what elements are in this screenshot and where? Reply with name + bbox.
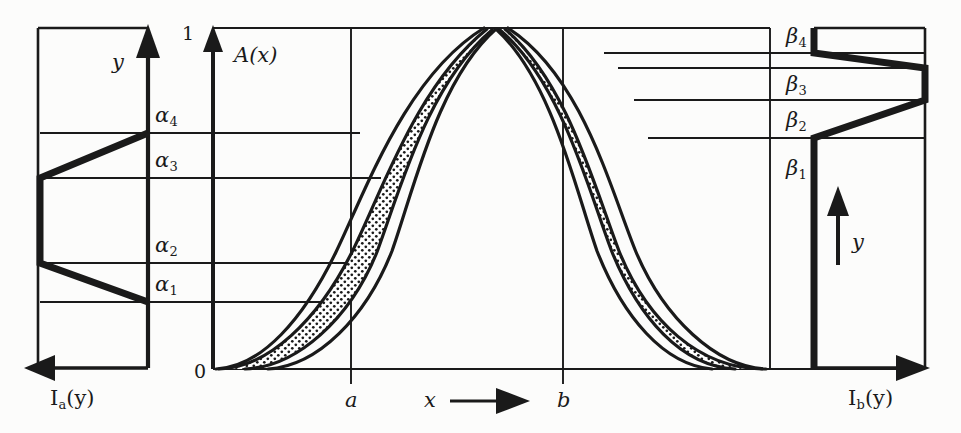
beta-2-glyph: β	[786, 108, 798, 132]
beta-4-label: β4	[786, 26, 807, 49]
beta-4-sub: 4	[798, 35, 806, 50]
right-panel-x-axis	[814, 355, 930, 381]
beta-1-glyph: β	[786, 156, 798, 180]
right-panel-y-label: y	[852, 232, 864, 253]
y-axis-max-label: 1	[182, 24, 194, 43]
right-panel-axis-label: Ib(y)	[848, 388, 893, 411]
uncertainty-stipple-region	[219, 29, 762, 369]
beta-3-glyph: β	[786, 72, 798, 96]
beta-gridlines	[604, 53, 925, 138]
beta-1-sub: 1	[798, 167, 806, 182]
left-panel-axis-arg: (y)	[66, 386, 94, 410]
beta-3-label: β3	[786, 74, 807, 97]
beta-3-sub: 3	[798, 83, 806, 98]
left-panel-y-axis	[136, 24, 160, 368]
y-axis-label: A(x)	[234, 45, 277, 66]
x-axis-arrow-icon	[450, 388, 530, 414]
left-interval-profile	[40, 133, 148, 302]
right-panel-y-arrow-icon	[827, 186, 849, 265]
right-panel-axis-I: I	[848, 386, 856, 410]
beta-2-label: β2	[786, 110, 807, 133]
x-axis-label: x	[424, 390, 436, 411]
x-tick-label-a: a	[345, 390, 358, 411]
alpha-2-sub: 2	[169, 244, 177, 259]
alpha-4-label: α4	[155, 105, 178, 128]
beta-4-glyph: β	[786, 24, 798, 48]
figure-root: 1 0 A(x) a b x y α4 α3 α2 α1 Ia(y) β4 β3…	[0, 0, 961, 433]
alpha-3-sub: 3	[169, 159, 177, 174]
left-panel	[24, 24, 160, 381]
alpha-2-label: α2	[155, 235, 178, 258]
right-interval-profile	[814, 28, 925, 368]
beta-1-label: β1	[786, 158, 807, 181]
alpha-2-glyph: α	[155, 233, 169, 257]
y-axis-min-label: 0	[194, 362, 206, 381]
left-panel-axis-I: I	[50, 386, 58, 410]
alpha-1-glyph: α	[155, 272, 169, 296]
right-panel-axis-arg: (y)	[865, 386, 893, 410]
alpha-1-sub: 1	[169, 283, 177, 298]
beta-2-sub: 2	[798, 119, 806, 134]
alpha-4-sub: 4	[169, 114, 177, 129]
curve-inner-right	[496, 29, 712, 369]
diagram-canvas	[0, 0, 961, 433]
alpha-1-label: α1	[155, 274, 178, 297]
alpha-3-label: α3	[155, 150, 178, 173]
left-panel-y-label: y	[112, 52, 124, 73]
right-panel-axis-sub: b	[857, 397, 865, 412]
right-panel	[814, 28, 930, 381]
alpha-3-glyph: α	[155, 148, 169, 172]
alpha-4-glyph: α	[155, 103, 169, 127]
membership-curve-band	[216, 28, 766, 369]
left-panel-x-axis	[24, 355, 148, 381]
x-tick-label-b: b	[557, 390, 570, 411]
left-panel-axis-label: Ia(y)	[50, 388, 95, 411]
